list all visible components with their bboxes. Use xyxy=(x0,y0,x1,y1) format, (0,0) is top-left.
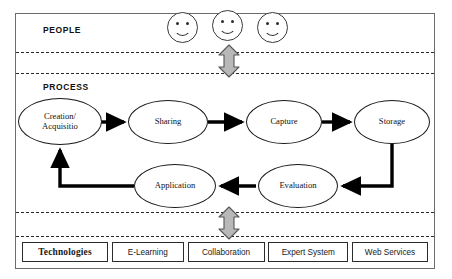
band-label-people: PEOPLE xyxy=(43,25,81,35)
technology-box-technologies[interactable]: Technologies xyxy=(22,242,108,262)
process-node-capture-label: Capture xyxy=(270,117,297,127)
process-node-application[interactable]: Application xyxy=(134,164,216,208)
technology-box-e-learning-label: E-Learning xyxy=(128,248,168,257)
diagram-canvas: PEOPLE PROCESS xyxy=(0,0,452,279)
double-arrow-icon-process-technologies xyxy=(216,206,242,240)
process-node-evaluation[interactable]: Evaluation xyxy=(258,164,338,208)
process-node-storage[interactable]: Storage xyxy=(354,100,430,144)
smiley-mouth xyxy=(174,25,191,36)
technology-box-web-services-label: Web Services xyxy=(365,248,415,257)
smiley-face-icon-3 xyxy=(257,12,288,43)
technologies-row: Technologies E-Learning Collaboration Ex… xyxy=(22,241,428,263)
double-arrow-icon-people-process xyxy=(216,44,242,78)
technology-box-web-services[interactable]: Web Services xyxy=(352,242,428,262)
smiley-mouth xyxy=(264,25,281,36)
technology-box-collaboration-label: Collaboration xyxy=(202,248,250,257)
process-node-creation-line1: Creation/ xyxy=(44,111,76,121)
process-node-application-label: Application xyxy=(155,181,196,191)
smiley-face-icon-1 xyxy=(167,12,198,43)
process-node-creation-line2: Acquisitio xyxy=(42,121,78,131)
technology-box-technologies-label: Technologies xyxy=(38,247,92,257)
process-node-creation-label: Creation/ Acquisitio xyxy=(42,112,78,131)
process-node-creation[interactable]: Creation/ Acquisitio xyxy=(18,98,102,145)
technology-box-expert-system[interactable]: Expert System xyxy=(268,242,348,262)
technology-box-collaboration[interactable]: Collaboration xyxy=(188,242,265,262)
technology-box-e-learning[interactable]: E-Learning xyxy=(112,242,184,262)
process-node-sharing[interactable]: Sharing xyxy=(128,100,208,144)
technology-box-expert-system-label: Expert System xyxy=(282,248,335,257)
process-node-evaluation-label: Evaluation xyxy=(279,181,316,191)
process-node-storage-label: Storage xyxy=(379,117,405,127)
process-node-sharing-label: Sharing xyxy=(155,117,182,127)
band-label-process: PROCESS xyxy=(43,82,89,92)
smiley-face-icon-2 xyxy=(212,10,243,41)
smiley-mouth xyxy=(219,23,236,34)
process-node-capture[interactable]: Capture xyxy=(246,100,322,144)
